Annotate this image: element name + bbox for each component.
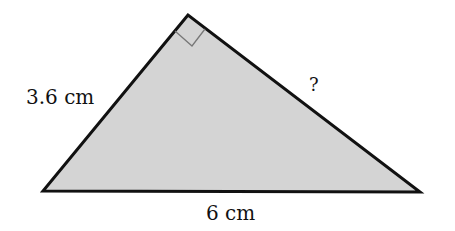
left-side-length-label: 3.6 cm — [26, 87, 94, 107]
triangle-diagram: 3.6 cm 6 cm ? — [0, 0, 455, 231]
triangle-figure — [0, 0, 455, 231]
right-triangle-shape — [43, 15, 420, 192]
unknown-side-label: ? — [309, 76, 319, 94]
bottom-side-length-label: 6 cm — [206, 203, 255, 223]
